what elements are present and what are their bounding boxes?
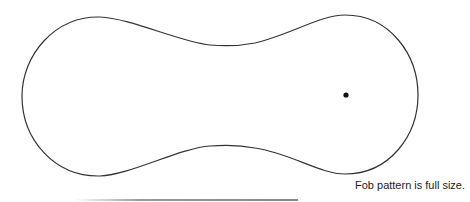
divider-line <box>74 199 298 201</box>
hole-marker-dot <box>343 92 348 97</box>
caption-text: Fob pattern is full size. <box>355 179 465 191</box>
fob-pattern-outline <box>0 0 470 202</box>
